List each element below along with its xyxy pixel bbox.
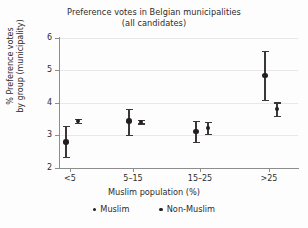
y-tick-mark-6 — [55, 38, 59, 39]
y-tick-label-3: 3 — [32, 131, 52, 139]
chart-title-block: Preference votes in Belgian municipaliti… — [0, 7, 308, 29]
y-tick-mark-3 — [55, 135, 59, 136]
gridline-5 — [60, 70, 298, 71]
y-tick-mark-5 — [55, 70, 59, 71]
error-bar-cap-upper — [63, 126, 70, 127]
y-tick-label-4: 4 — [32, 99, 52, 107]
error-bar-cap-upper — [126, 109, 133, 110]
error-bar-cap-upper — [205, 122, 212, 123]
data-point-marker[interactable] — [206, 126, 210, 130]
error-bar-cap-lower — [75, 123, 82, 124]
y-tick-label-5: 5 — [32, 66, 52, 74]
x-tick-mark-3 — [200, 168, 201, 172]
y-tick-label-6: 6 — [32, 34, 52, 42]
error-bar-cap-upper — [274, 102, 281, 103]
y-tick-mark-4 — [55, 103, 59, 104]
legend-label-muslim: Muslim — [100, 205, 129, 214]
plot-area — [60, 38, 298, 168]
x-tick-mark-2 — [133, 168, 134, 172]
y-axis-label-line2: by group (municipality) — [16, 1, 26, 131]
x-tick-mark-1 — [70, 168, 71, 172]
gridline-4 — [60, 103, 298, 104]
x-tick-label-5-15: 5–15 — [113, 174, 153, 183]
data-point-marker[interactable] — [63, 139, 68, 144]
chart-title: Preference votes in Belgian municipaliti… — [0, 7, 308, 18]
x-tick-label-gt25: >25 — [249, 174, 289, 183]
y-tick-mark-2 — [55, 168, 59, 169]
y-axis-label-line1: % Preference votes — [6, 1, 16, 131]
data-point-marker[interactable] — [262, 73, 267, 78]
x-tick-mark-4 — [269, 168, 270, 172]
error-bar-cap-lower — [205, 134, 212, 135]
error-bar-cap-upper — [193, 121, 200, 122]
y-axis-line — [59, 37, 60, 169]
y-tick-label-2: 2 — [32, 164, 52, 172]
legend-item-non-muslim[interactable]: Non-Muslim — [159, 205, 215, 214]
x-tick-label-lt5: <5 — [50, 174, 90, 183]
error-bar-cap-lower — [63, 157, 70, 158]
error-bar-cap-lower — [193, 142, 200, 143]
chart-legend: Muslim Non-Muslim — [0, 205, 308, 214]
x-axis-line — [59, 168, 299, 169]
legend-marker-dot-icon — [159, 208, 162, 211]
error-bar-cap-lower — [262, 100, 269, 101]
error-bar-cap-lower — [126, 135, 133, 136]
error-bar-cap-lower — [274, 116, 281, 117]
legend-label-non-muslim: Non-Muslim — [167, 205, 215, 214]
data-point-marker[interactable] — [126, 118, 131, 123]
y-axis-label: % Preference votes by group (municipalit… — [6, 1, 26, 131]
gridline-3 — [60, 135, 298, 136]
x-axis-label: Muslim population (%) — [0, 187, 308, 197]
legend-marker-dot-icon — [93, 208, 96, 211]
legend-item-muslim[interactable]: Muslim — [93, 205, 129, 214]
x-tick-label-15-25: 15–25 — [180, 174, 220, 183]
chart-figure: Preference votes in Belgian municipaliti… — [0, 0, 308, 228]
chart-subtitle: (all candidates) — [0, 18, 308, 29]
gridline-6 — [60, 38, 298, 39]
error-bar-cap-upper — [262, 51, 269, 52]
data-point-marker[interactable] — [193, 129, 198, 134]
